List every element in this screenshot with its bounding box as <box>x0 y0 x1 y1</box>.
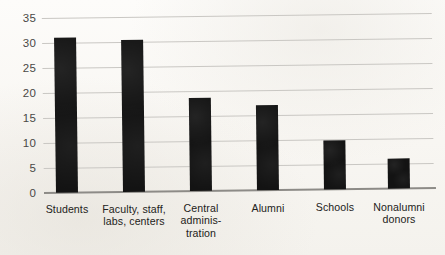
gridline-15 <box>43 113 433 119</box>
bar-faculty-staff-labs-centers <box>121 39 145 192</box>
ytick-label-25: 25 <box>2 62 36 74</box>
ytick-label-5: 5 <box>2 162 36 174</box>
gridline-20 <box>43 88 433 94</box>
gridline-30 <box>42 38 432 44</box>
xtick-line-1: Alumni <box>252 202 285 214</box>
xtick-line-1: Schools <box>316 201 354 213</box>
bar-schools <box>323 140 346 189</box>
ytick-label-20: 20 <box>2 87 36 99</box>
bar-chart: 35 30 25 20 15 10 5 0 Students Faculty, … <box>0 0 445 255</box>
gridline-35 <box>42 13 432 19</box>
bar-nonalumni-donors <box>388 158 410 189</box>
xtick-line-2: adminis- <box>158 214 244 226</box>
ytick-label-0: 0 <box>2 187 36 199</box>
gridline-5 <box>44 163 434 169</box>
bar-alumni <box>256 105 279 190</box>
xtick-label-nonalumni-donors: Nonalumni donors <box>356 201 442 226</box>
ytick-label-35: 35 <box>2 12 36 24</box>
ytick-label-15: 15 <box>2 112 36 124</box>
gridline-10 <box>43 138 433 144</box>
xtick-line-1: Students <box>46 203 89 215</box>
xtick-line-2: donors <box>356 213 442 225</box>
bar-central-administration <box>189 97 212 191</box>
ytick-label-30: 30 <box>2 37 36 49</box>
xtick-line-1: Nonalumni <box>373 201 425 213</box>
gridline-25 <box>42 63 432 69</box>
xtick-line-1: Faculty, staff, <box>102 203 166 215</box>
xtick-line-1: Central <box>184 202 219 214</box>
x-axis-line <box>44 187 436 194</box>
bar-students <box>54 38 78 193</box>
xtick-line-3: tration <box>158 227 244 239</box>
ytick-label-10: 10 <box>2 137 36 149</box>
